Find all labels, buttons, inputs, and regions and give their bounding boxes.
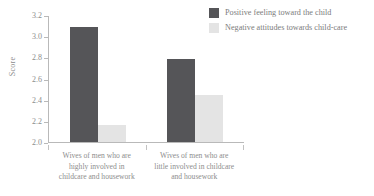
y-axis-tick: 2.4 [16,96,48,106]
y-axis-tick-mark [44,122,48,123]
y-axis-tick-label: 2.6 [32,75,42,85]
y-axis-tick-label: 2.2 [32,117,42,127]
x-axis-category-label-line: highly involved in [44,162,150,173]
y-axis-title: Score [8,37,17,97]
y-axis-tick-mark [44,101,48,102]
bar [195,95,223,142]
x-axis-category-label-line: Wives of men who are [142,151,248,162]
bar [167,59,195,142]
x-axis-category-label-line: childcare and housework [44,172,150,183]
y-axis-tick-mark [44,80,48,81]
x-axis-labels: Wives of men who arehighly involved inch… [48,145,244,195]
y-axis-tick: 2.8 [16,53,48,63]
y-axis-tick-label: 3.2 [32,11,42,21]
y-axis-tick: 2.0 [16,138,48,148]
bar [98,125,126,142]
x-axis-category-label: Wives of men who arehighly involved inch… [44,151,150,183]
y-axis-tick-mark [44,143,48,144]
bar-chart: Positive feeling toward the child Negati… [0,0,374,196]
x-axis-separator [243,145,244,150]
x-axis-separator [146,145,147,150]
x-axis-line [48,142,244,143]
y-axis-tick: 3.2 [16,11,48,21]
y-axis-tick: 2.2 [16,117,48,127]
y-axis-tick: 3.0 [16,32,48,42]
y-axis-tick-mark [44,16,48,17]
plot-area: 3.23.02.82.62.42.22.0 [48,16,244,143]
y-axis-tick-label: 2.8 [32,53,42,63]
bar-group-container [49,16,244,142]
y-axis-tick-label: 3.0 [32,32,42,42]
x-axis-category-label-line: Wives of men who are [44,151,150,162]
y-axis-tick-mark [44,58,48,59]
x-axis-category-label: Wives of men who arelittle involved in c… [142,151,248,183]
y-axis-tick: 2.6 [16,75,48,85]
x-axis-separator [48,145,49,150]
x-axis-category-label-line: and housework [142,172,248,183]
y-axis-tick-label: 2.0 [32,138,42,148]
y-axis-tick-mark [44,37,48,38]
y-axis-tick-label: 2.4 [32,96,42,106]
x-axis-category-label-line: little involved in childcare [142,162,248,173]
bar [70,27,98,143]
